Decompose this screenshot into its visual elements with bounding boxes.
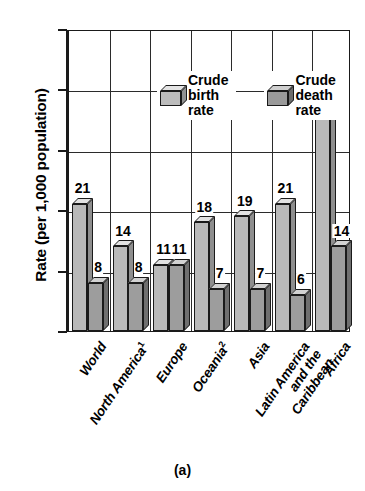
value-label-crude-birth-rate: 19 xyxy=(236,194,254,209)
value-label-crude-death-rate: 11 xyxy=(171,242,188,257)
legend-label-crude-birth-rate: Crude birth rate xyxy=(188,73,233,118)
figure-caption: (a) xyxy=(0,462,365,478)
value-label-crude-death-rate: 7 xyxy=(215,266,225,281)
value-label-crude-death-rate: 14 xyxy=(333,224,351,239)
x-axis-category-label: Latin Americaand theCaribbean xyxy=(223,340,337,480)
bar-crude-birth-rate xyxy=(113,246,128,331)
bar-crude-birth-rate xyxy=(194,222,209,331)
value-label-crude-birth-rate: 21 xyxy=(277,181,295,196)
gridline-vertical xyxy=(110,31,111,331)
bar-crude-birth-rate xyxy=(72,204,87,331)
value-label-crude-birth-rate: 14 xyxy=(114,224,132,239)
value-label-crude-death-rate: 8 xyxy=(134,260,144,275)
bar-crude-birth-rate xyxy=(234,216,249,331)
gridline-horizontal xyxy=(69,152,349,153)
value-label-crude-birth-rate: 21 xyxy=(74,181,92,196)
value-label-crude-birth-rate: 18 xyxy=(195,200,213,215)
legend-label-crude-death-rate: Crude death rate xyxy=(295,73,346,118)
bar-crude-death-rate xyxy=(169,265,184,331)
bar-crude-death-rate xyxy=(128,283,143,331)
bar-crude-death-rate xyxy=(331,246,346,331)
crude-death-rate-cube-icon xyxy=(267,91,288,106)
value-label-crude-death-rate: 6 xyxy=(296,272,306,287)
bar-crude-birth-rate xyxy=(153,265,168,331)
y-axis-title: Rate (per 1,000 population) xyxy=(32,40,50,330)
bar-crude-birth-rate xyxy=(315,108,330,331)
value-label-crude-death-rate: 8 xyxy=(93,260,103,275)
legend-item-crude-death-rate: Crude death rate xyxy=(264,71,349,120)
crude-birth-rate-cube-icon xyxy=(160,91,181,106)
legend-item-crude-birth-rate: Crude birth rate xyxy=(157,71,236,120)
bar-crude-death-rate xyxy=(209,289,224,331)
gridline-vertical xyxy=(150,31,151,331)
legend: Crude birth rate Crude death rate xyxy=(157,71,349,120)
value-label-crude-birth-rate: 11 xyxy=(155,242,172,257)
bar-crude-death-rate xyxy=(250,289,265,331)
value-label-crude-death-rate: 7 xyxy=(255,266,265,281)
bar-crude-death-rate xyxy=(290,295,305,331)
bar-crude-death-rate xyxy=(88,283,103,331)
bar-crude-birth-rate xyxy=(275,204,290,331)
plot-area: 21814811111871972163714 Crude birth rate… xyxy=(66,30,350,332)
